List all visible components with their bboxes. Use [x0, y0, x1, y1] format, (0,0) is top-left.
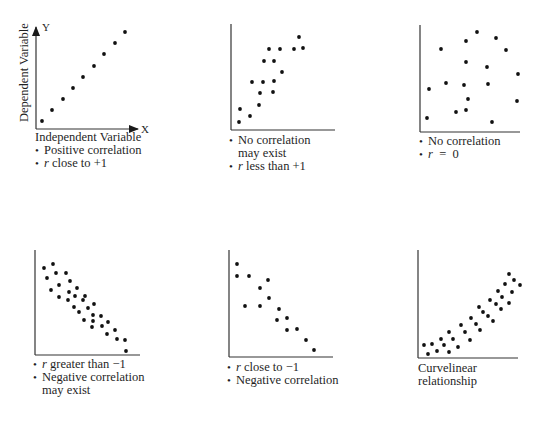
- data-point: [462, 83, 466, 87]
- data-point: [426, 352, 430, 356]
- data-point: [72, 305, 76, 309]
- note-r-value: r close to +1: [35, 157, 142, 170]
- data-point: [475, 30, 479, 34]
- data-point: [486, 314, 490, 318]
- data-point: [124, 349, 128, 353]
- note-text: greater than −1: [47, 357, 126, 371]
- data-point: [105, 332, 109, 336]
- data-point: [99, 314, 103, 318]
- note-text: No correlation: [428, 134, 501, 148]
- data-point: [77, 310, 81, 314]
- note-text: No correlation: [238, 133, 311, 147]
- data-point: [81, 75, 85, 79]
- data-point: [464, 60, 468, 64]
- data-point: [45, 276, 49, 280]
- data-point: [439, 47, 443, 51]
- data-point: [490, 120, 494, 124]
- data-point: [468, 338, 472, 342]
- data-point: [504, 48, 508, 52]
- data-point: [102, 52, 106, 56]
- data-point: [271, 90, 275, 94]
- data-point: [496, 289, 500, 293]
- data-point: [466, 97, 470, 101]
- note-text: less than +1: [243, 159, 306, 173]
- data-point: [518, 283, 522, 287]
- data-point: [486, 82, 490, 86]
- data-point: [91, 319, 95, 323]
- data-point: [90, 325, 94, 329]
- data-point: [42, 266, 46, 270]
- data-point: [49, 288, 53, 292]
- data-point: [82, 318, 86, 322]
- plot-no-correlation: [420, 25, 520, 132]
- data-point: [123, 30, 127, 34]
- data-point: [295, 327, 299, 331]
- data-point: [113, 41, 117, 45]
- data-point: [427, 87, 431, 91]
- plot-2-notes: No correlation may exist r less than +1: [229, 134, 311, 173]
- note-r-value: r less than +1: [229, 160, 311, 173]
- data-point: [235, 274, 239, 278]
- data-point: [422, 343, 426, 347]
- data-point: [267, 47, 271, 51]
- data-point: [515, 99, 519, 103]
- note-text: Negative correlation: [236, 373, 338, 387]
- y-axis-letter: Y: [42, 21, 50, 33]
- data-point: [507, 301, 511, 305]
- data-point: [123, 338, 127, 342]
- data-point: [485, 65, 489, 69]
- data-point: [469, 316, 473, 320]
- data-point: [464, 108, 468, 112]
- data-point: [312, 348, 316, 352]
- data-point: [285, 316, 289, 320]
- plot-strong-negative-correlation: [229, 250, 333, 357]
- plot-5-notes: r close to −1 Negative correlation: [227, 361, 338, 387]
- data-point: [238, 107, 242, 111]
- data-point: [73, 294, 77, 298]
- data-point: [512, 278, 516, 282]
- note-r-value: r = 0: [419, 148, 501, 161]
- data-point: [247, 274, 251, 278]
- data-point: [459, 323, 463, 327]
- data-point: [92, 64, 96, 68]
- data-point: [456, 345, 460, 349]
- data-point: [66, 298, 70, 302]
- data-point: [503, 282, 507, 286]
- data-point: [50, 108, 54, 112]
- data-point: [301, 46, 305, 50]
- data-point: [267, 296, 271, 300]
- x-axis-letter: X: [141, 123, 149, 135]
- data-point: [477, 305, 481, 309]
- data-point: [258, 286, 262, 290]
- data-point: [54, 271, 58, 275]
- data-point: [272, 79, 276, 83]
- data-point: [435, 349, 439, 353]
- data-point: [91, 313, 95, 317]
- data-point: [51, 262, 55, 266]
- data-point: [115, 337, 119, 341]
- data-point: [237, 120, 241, 124]
- data-point: [257, 103, 261, 107]
- data-point: [478, 328, 482, 332]
- data-point: [262, 59, 266, 63]
- plot-weak-negative-correlation: [35, 250, 140, 355]
- data-point: [64, 271, 68, 275]
- data-point: [454, 110, 458, 114]
- data-point: [285, 328, 289, 332]
- data-point: [425, 116, 429, 120]
- data-point: [258, 91, 262, 95]
- data-point: [83, 294, 87, 298]
- data-point: [261, 80, 265, 84]
- data-point: [500, 295, 504, 299]
- data-point: [439, 337, 443, 341]
- plot-4-notes: r greater than −1 Negative correlation m…: [33, 358, 144, 397]
- data-point: [57, 295, 61, 299]
- note-text: Positive correlation: [44, 143, 142, 157]
- data-point: [61, 97, 65, 101]
- data-point: [491, 319, 495, 323]
- data-point: [278, 47, 282, 51]
- data-point: [250, 80, 254, 84]
- data-point: [510, 290, 514, 294]
- plot-6-notes: Curvelinear relationship: [418, 362, 477, 388]
- data-point: [68, 279, 72, 283]
